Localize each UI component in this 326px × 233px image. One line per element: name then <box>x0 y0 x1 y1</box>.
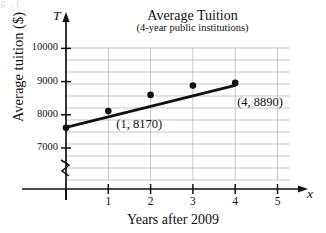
y-tick-label-7000: 7000 <box>22 141 58 152</box>
y-tick-label-9000: 9000 <box>22 75 58 86</box>
x-tick-label-4: 4 <box>227 195 243 207</box>
data-point-4 <box>232 80 239 87</box>
x-tick-label-5: 5 <box>270 195 286 207</box>
data-point-0 <box>63 124 70 131</box>
y-tick-label-8000: 8000 <box>22 108 58 119</box>
point-annotation-2: (4, 8890) <box>237 95 283 110</box>
data-point-1 <box>105 108 112 115</box>
y-axis-arrowhead <box>62 12 69 22</box>
x-tick-label-1: 1 <box>100 195 116 207</box>
data-point-2 <box>147 92 154 99</box>
x-tick-label-2: 2 <box>143 195 159 207</box>
x-axis-arrowhead <box>298 185 308 192</box>
y-tick-label-10000: 10000 <box>22 41 58 52</box>
tuition-scatter-figure: g , ( Average tuition ($) Average Tuitio… <box>0 0 326 233</box>
point-annotation-1: (1, 8170) <box>116 117 162 132</box>
gridlines-horizontal <box>66 48 290 180</box>
x-tick-label-3: 3 <box>185 195 201 207</box>
gridlines-vertical <box>108 48 277 180</box>
data-point-3 <box>190 82 197 89</box>
